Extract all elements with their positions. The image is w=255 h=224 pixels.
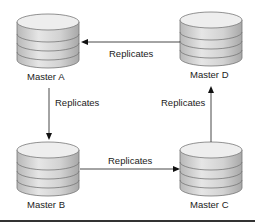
arrowhead-icon: [46, 133, 52, 140]
edge-label-b-to-c: Replicates: [108, 155, 152, 166]
master-c-database-icon: [180, 142, 242, 196]
arrowhead-icon: [173, 166, 180, 172]
node-label-master-d: Master D: [190, 69, 229, 80]
node-label-master-b: Master B: [27, 199, 65, 210]
replication-diagram: [0, 0, 255, 224]
bottom-rule: [0, 220, 255, 222]
arrowhead-icon: [81, 39, 88, 45]
edge-label-c-to-d: Replicates: [161, 97, 205, 108]
master-a-database-icon: [17, 14, 79, 68]
master-d-database-icon: [180, 12, 242, 66]
edge-label-a-to-b: Replicates: [55, 97, 99, 108]
master-b-database-icon: [17, 142, 79, 196]
node-label-master-c: Master C: [190, 199, 229, 210]
node-label-master-a: Master A: [27, 71, 65, 82]
arrowhead-icon: [208, 86, 214, 93]
edge-label-d-to-a: Replicates: [109, 48, 153, 59]
